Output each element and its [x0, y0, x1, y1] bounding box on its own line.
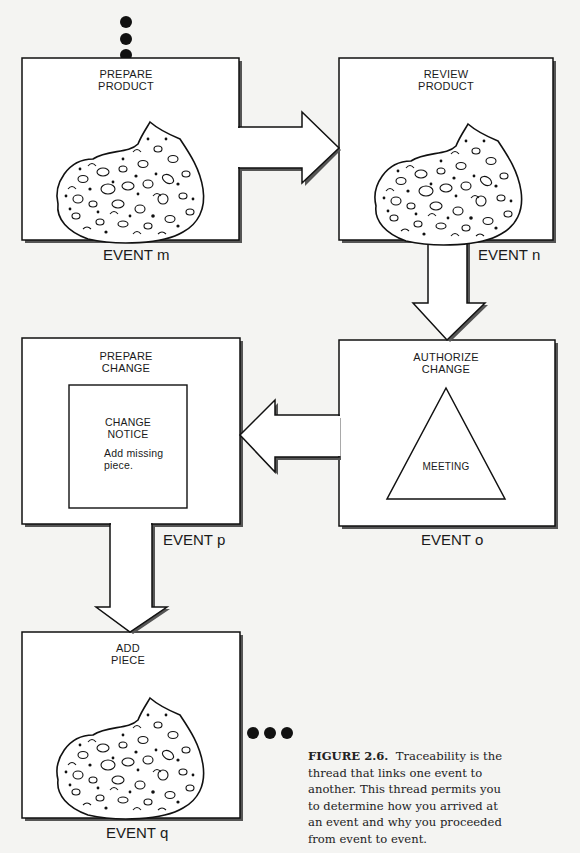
- event-o-title-line2: CHANGE: [396, 363, 496, 375]
- figure-caption-text: Traceability is the thread that links on…: [308, 749, 502, 846]
- continuation-dots-top: [120, 16, 132, 61]
- event-o-label: EVENT o: [421, 532, 483, 548]
- arrow-o-to-p: [240, 400, 341, 475]
- figure-number: FIGURE 2.6.: [308, 749, 388, 763]
- event-p-title: PREPARE CHANGE: [76, 350, 176, 374]
- change-notice-title-line2: NOTICE: [78, 428, 178, 440]
- event-n-title-line2: PRODUCT: [396, 80, 496, 92]
- event-m-label: EVENT m: [103, 247, 169, 263]
- event-m-title-line2: PRODUCT: [76, 80, 176, 92]
- event-q-title: ADD PIECE: [78, 642, 178, 666]
- meeting-label: MEETING: [406, 461, 486, 473]
- figure-caption: FIGURE 2.6. Traceability is the thread t…: [308, 748, 508, 847]
- event-m-title-line1: PREPARE: [76, 68, 176, 80]
- change-notice-title-line1: CHANGE: [78, 416, 178, 428]
- event-n-title-line1: REVIEW: [396, 68, 496, 80]
- change-notice-body: Add missing piece.: [104, 447, 174, 471]
- event-o-title: AUTHORIZE CHANGE: [396, 351, 496, 375]
- arrow-p-to-q: [96, 524, 170, 634]
- event-p-label: EVENT p: [163, 532, 225, 548]
- event-p-title-line2: CHANGE: [76, 362, 176, 374]
- event-p-title-line1: PREPARE: [76, 350, 176, 362]
- change-notice-title: CHANGE NOTICE: [78, 416, 178, 440]
- event-q-title-line2: PIECE: [78, 654, 178, 666]
- change-notice-body-line2: piece.: [104, 459, 174, 471]
- continuation-dots-right: [247, 727, 293, 739]
- event-n-title: REVIEW PRODUCT: [396, 68, 496, 92]
- arrow-n-to-o: [413, 240, 488, 342]
- change-notice-body-line1: Add missing: [104, 447, 174, 459]
- event-q-label: EVENT q: [106, 825, 168, 841]
- event-q-title-line1: ADD: [78, 642, 178, 654]
- arrow-m-to-n: [239, 112, 341, 186]
- event-o-title-line1: AUTHORIZE: [396, 351, 496, 363]
- event-m-title: PREPARE PRODUCT: [76, 68, 176, 92]
- event-n-label: EVENT n: [478, 247, 540, 263]
